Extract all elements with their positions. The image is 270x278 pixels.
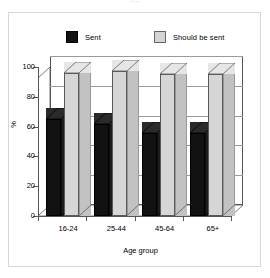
y-label-100: 100	[13, 62, 35, 71]
bar-65+-should-be-sent	[208, 63, 235, 216]
x-tick-3	[183, 216, 184, 221]
y-axis-title: %	[9, 121, 18, 128]
chart-legend: Sent Should be sent	[56, 28, 256, 46]
x-axis-title: Age group	[38, 246, 243, 255]
y-label-20: 20	[13, 181, 35, 190]
bar-front-face	[142, 133, 157, 216]
bar-front-face	[112, 71, 127, 216]
x-tick-1	[86, 216, 87, 221]
chart-figure: ···· Sent Should be sent	[0, 0, 270, 278]
x-tick-0	[38, 216, 39, 221]
x-axis-label-45-64: 45-64	[143, 224, 187, 233]
y-label-80: 80	[13, 92, 35, 101]
x-axis-label-25-44: 25-44	[94, 224, 138, 233]
bar-front-face	[64, 73, 79, 216]
y-label-0: 0	[13, 211, 35, 220]
bar-front-face	[190, 133, 205, 216]
gridline-100	[50, 56, 243, 57]
x-tick-end	[231, 216, 232, 221]
bar-front-face	[208, 74, 223, 216]
bar-front-face	[94, 124, 109, 216]
legend-item-sent: Sent	[66, 28, 101, 46]
legend-label-sent: Sent	[85, 33, 101, 42]
bar-front-face	[160, 74, 175, 216]
bar-25-44-should-be-sent	[112, 60, 139, 216]
bar-front-face	[46, 119, 61, 216]
legend-label-should-be-sent: Should be sent	[173, 33, 224, 42]
legend-item-should-be-sent: Should be sent	[154, 28, 224, 46]
bar-16-24-should-be-sent	[64, 62, 91, 216]
x-axis-label-16-24: 16-24	[46, 224, 90, 233]
y-label-40: 40	[13, 151, 35, 160]
legend-swatch-sent	[66, 31, 78, 43]
bar-45-64-should-be-sent	[160, 63, 187, 216]
x-tick-2	[135, 216, 136, 221]
plot-area: 100 80 60 40 20 0 % 16-2425-4445-6465+ A…	[38, 56, 243, 216]
legend-swatch-should-be-sent	[154, 31, 166, 43]
clipped-title: ····	[0, 0, 270, 5]
y-axis-line	[38, 67, 39, 216]
x-axis-label-65+: 65+	[191, 224, 235, 233]
